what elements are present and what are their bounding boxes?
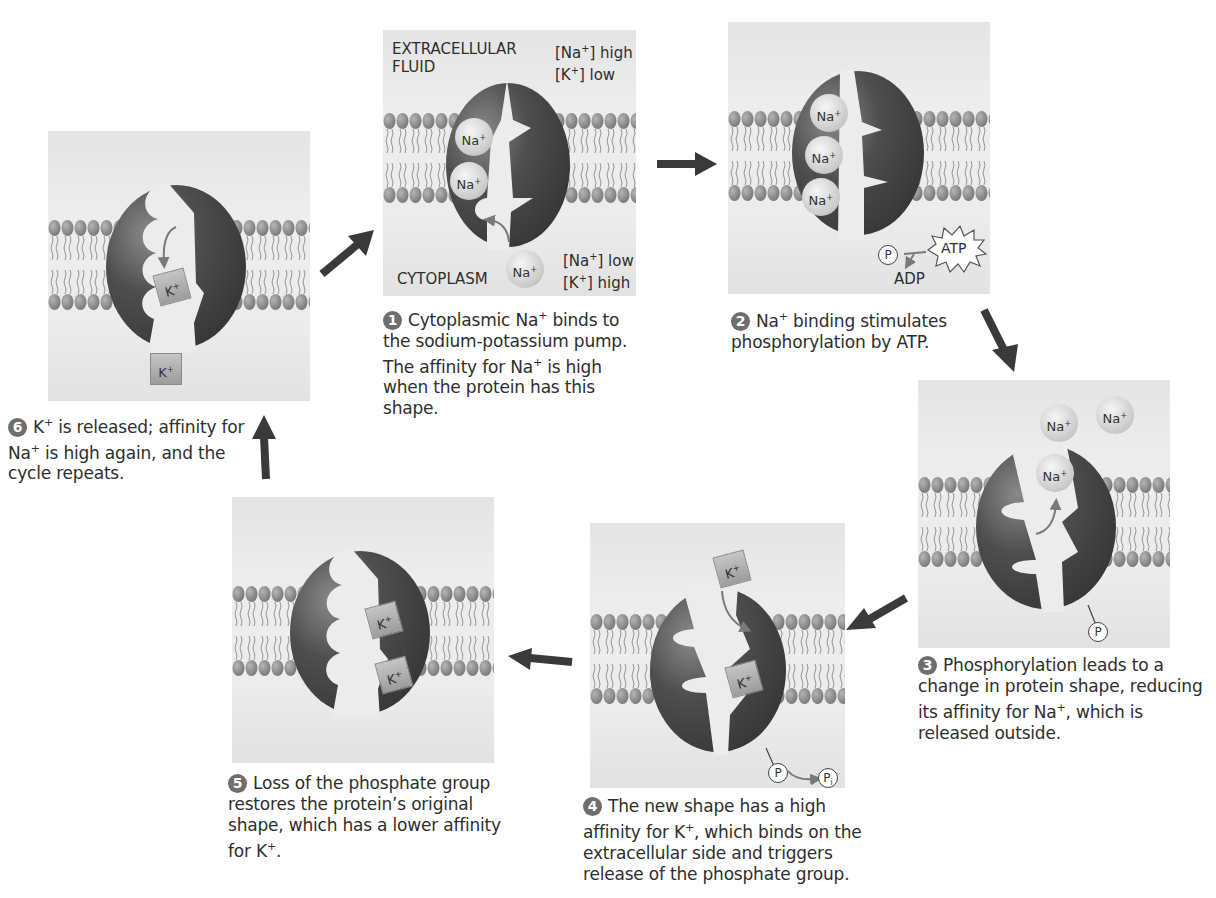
step-badge: 4 — [583, 797, 602, 816]
caption-step-2: 2Na+ binding stimulates phosphorylation … — [731, 306, 991, 353]
panel-step-6: K+ K+ — [48, 131, 310, 401]
caption-step-4: 4The new shape has a high affinity for K… — [583, 796, 883, 885]
cycle-arrow-6-to-1-icon — [318, 230, 378, 280]
sodium-ion: Na+ — [455, 118, 493, 156]
cycle-arrow-3-to-4-icon — [846, 594, 910, 634]
panel-step-3: Na+ Na+ Na+ P — [918, 380, 1170, 648]
release-arrow-icon — [148, 223, 188, 273]
pump-protein — [288, 549, 438, 719]
sodium-ion: Na+ — [1096, 396, 1134, 434]
cycle-arrow-2-to-3-icon — [980, 306, 1024, 376]
sodium-ion: Na+ — [1040, 404, 1078, 442]
binding-arrow-icon — [716, 589, 756, 639]
panel-step-5: K+ K+ — [232, 497, 494, 763]
caption-step-6: 6K+ is released; affinity for Na+ is hig… — [8, 412, 248, 484]
phosphate-group: P — [1088, 622, 1108, 642]
panel-step-4: K+ K+ P Pi — [590, 523, 845, 788]
sodium-ion: Na+ — [506, 250, 544, 288]
sodium-ion: Na+ — [450, 162, 488, 200]
panel-step-1: EXTRACELLULAR FLUID [Na+] high [K+] low … — [383, 30, 636, 296]
cycle-arrow-5-to-6-icon — [252, 415, 276, 481]
sodium-ion: Na+ — [810, 94, 848, 132]
step-badge: 1 — [383, 311, 402, 330]
inorganic-phosphate: Pi — [818, 768, 838, 788]
adp-label: ADP — [894, 270, 925, 288]
phosphate-transfer-arrow-icon — [894, 246, 934, 270]
sodium-ion: Na+ — [1036, 454, 1074, 492]
cytoplasm-label: CYTOPLASM — [397, 270, 488, 288]
phosphate-group: P — [768, 763, 788, 783]
caption-step-1: 1Cytoplasmic Na+ binds to the sodium-pot… — [383, 305, 643, 419]
sodium-ion: Na+ — [805, 136, 843, 174]
sodium-ion: Na+ — [802, 178, 840, 216]
concentration-outside: [Na+] high [K+] low — [555, 40, 633, 84]
step-badge: 6 — [8, 418, 27, 437]
release-arrow-icon — [1030, 490, 1070, 540]
step-badge: 3 — [918, 656, 937, 675]
caption-step-3: 3Phosphorylation leads to a change in pr… — [918, 655, 1208, 744]
step-badge: 5 — [228, 774, 247, 793]
step-badge: 2 — [731, 312, 750, 331]
extracellular-label: EXTRACELLULAR FLUID — [392, 40, 517, 76]
caption-step-5: 5Loss of the phosphate group restores th… — [228, 773, 518, 862]
potassium-ion: K+ — [150, 353, 182, 385]
cycle-arrow-4-to-5-icon — [508, 648, 572, 672]
concentration-inside: [Na+] low [K+] high — [563, 248, 634, 292]
atp-label: ATP — [941, 239, 966, 257]
cycle-arrow-1-to-2-icon — [657, 152, 721, 176]
potassium-ion: K+ — [712, 549, 751, 588]
panel-step-2: Na+ Na+ Na+ P ATP ADP — [728, 22, 990, 294]
binding-arrow-icon — [483, 206, 523, 246]
